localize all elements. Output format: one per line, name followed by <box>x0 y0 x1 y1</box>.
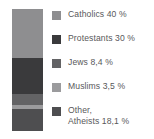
legend-item-other-atheists: Other,Atheists 18,1 % <box>52 105 129 126</box>
stacked-bar-column <box>12 9 43 131</box>
legend-label-protestants: Protestants 30 % <box>68 33 135 44</box>
legend-label-jews: Jews 8,4 % <box>68 57 113 68</box>
legend-label-muslims: Muslims 3,5 % <box>68 81 125 92</box>
bar-segment-other-atheists <box>12 109 43 131</box>
legend-swatch-jews-icon <box>52 59 61 68</box>
legend-label-other-line2: Atheists 18,1 % <box>68 116 129 127</box>
bar-segment-jews <box>12 94 43 104</box>
legend-label-other-line1: Other, <box>68 105 92 115</box>
bar-segment-protestants <box>12 58 43 95</box>
legend-item-jews: Jews 8,4 % <box>52 57 113 68</box>
legend-label-other-atheists: Other,Atheists 18,1 % <box>68 105 129 126</box>
bar-segment-catholics <box>12 9 43 58</box>
legend: Catholics 40 % Protestants 30 % Jews 8,4… <box>52 7 154 133</box>
legend-swatch-muslims-icon <box>52 83 61 92</box>
stacked-bar-chart: Catholics 40 % Protestants 30 % Jews 8,4… <box>0 0 154 139</box>
legend-item-muslims: Muslims 3,5 % <box>52 81 125 92</box>
legend-swatch-catholics-icon <box>52 11 61 20</box>
legend-swatch-protestants-icon <box>52 35 61 44</box>
legend-swatch-other-atheists-icon <box>52 107 61 116</box>
legend-label-catholics: Catholics 40 % <box>68 9 127 20</box>
legend-item-protestants: Protestants 30 % <box>52 33 135 44</box>
legend-item-catholics: Catholics 40 % <box>52 9 127 20</box>
